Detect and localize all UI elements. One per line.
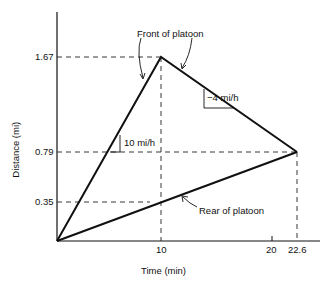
slope-label-up: 10 mi/h — [124, 138, 155, 148]
rear-of-platoon-line — [57, 152, 297, 241]
x-tick-label-20: 20 — [266, 245, 277, 255]
front-arrow-right — [182, 38, 192, 68]
x-tick-label-10: 10 — [156, 245, 167, 255]
x-tick-label-22-6: 22.6 — [288, 245, 307, 255]
front-of-platoon-label: Front of platoon — [137, 29, 204, 39]
slope-label-down: −4 mi/h — [207, 93, 238, 103]
time-space-diagram — [0, 0, 333, 283]
front-arrow-left — [139, 38, 143, 78]
rear-arrow — [183, 197, 197, 207]
y-axis-label: Distance (mi) — [11, 118, 21, 182]
rear-of-platoon-label: Rear of platoon — [199, 206, 264, 216]
y-tick-label-1-67: 1.67 — [35, 52, 54, 62]
y-tick-label-0-35: 0.35 — [35, 197, 54, 207]
x-axis-label: Time (min) — [141, 266, 186, 276]
y-tick-label-0-79: 0.79 — [35, 147, 54, 157]
